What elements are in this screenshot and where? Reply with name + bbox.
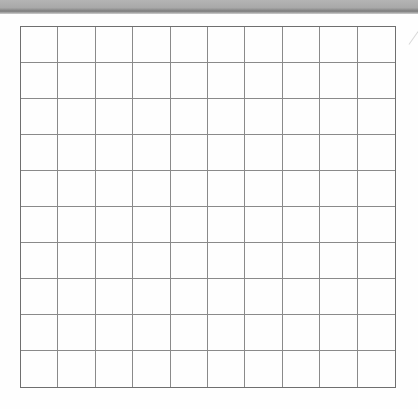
grid-cell xyxy=(208,207,245,243)
grid-cell xyxy=(171,351,208,387)
grid-cell xyxy=(133,351,170,387)
grid-cell xyxy=(320,315,357,351)
grid-cell xyxy=(358,315,395,351)
grid-cell xyxy=(245,171,282,207)
grid-cell xyxy=(96,171,133,207)
grid-cell xyxy=(245,243,282,279)
grid-cell xyxy=(58,171,95,207)
grid-cell xyxy=(283,207,320,243)
grid-cell xyxy=(171,207,208,243)
grid-cell xyxy=(208,171,245,207)
grid-cell xyxy=(133,63,170,99)
grid-cell xyxy=(171,171,208,207)
grid-cell xyxy=(358,171,395,207)
scan-edge-mark xyxy=(409,31,418,45)
grid-cell xyxy=(58,279,95,315)
grid-cell xyxy=(283,63,320,99)
grid-cell xyxy=(96,351,133,387)
grid-cell xyxy=(21,63,58,99)
grid-cell xyxy=(21,171,58,207)
grid-cell xyxy=(96,27,133,63)
grid-cell xyxy=(133,243,170,279)
grid-cell xyxy=(208,63,245,99)
grid-cell xyxy=(208,27,245,63)
scan-shadow-band xyxy=(0,0,418,14)
grid-cell xyxy=(245,99,282,135)
grid-cell xyxy=(208,315,245,351)
blank-grid xyxy=(20,26,396,388)
grid-cell xyxy=(283,279,320,315)
scanned-page xyxy=(0,0,418,409)
grid-cell xyxy=(320,63,357,99)
grid-cell xyxy=(96,99,133,135)
grid-cell xyxy=(283,99,320,135)
grid-cell xyxy=(208,351,245,387)
grid-cell xyxy=(171,63,208,99)
grid-cell xyxy=(133,135,170,171)
grid-cell xyxy=(358,279,395,315)
grid-cell xyxy=(58,351,95,387)
grid-cell xyxy=(21,27,58,63)
grid-cell xyxy=(320,171,357,207)
grid-cell xyxy=(58,27,95,63)
grid-cell xyxy=(96,207,133,243)
grid-cell xyxy=(358,27,395,63)
grid-cell xyxy=(133,315,170,351)
grid-cell xyxy=(245,351,282,387)
grid-cell xyxy=(21,351,58,387)
grid-cell xyxy=(320,207,357,243)
grid-cell xyxy=(96,279,133,315)
grid-cell xyxy=(320,27,357,63)
grid-cell xyxy=(21,99,58,135)
grid-cell xyxy=(171,243,208,279)
grid-cell xyxy=(208,135,245,171)
grid-cell xyxy=(358,243,395,279)
grid-cell xyxy=(58,63,95,99)
grid-cell xyxy=(320,135,357,171)
grid-cell xyxy=(58,99,95,135)
grid-cell xyxy=(171,315,208,351)
grid-cell xyxy=(133,207,170,243)
grid-cell xyxy=(58,243,95,279)
grid-cell xyxy=(320,351,357,387)
grid-cell xyxy=(245,315,282,351)
grid-cell xyxy=(208,279,245,315)
grid-cell xyxy=(245,279,282,315)
grid-cell xyxy=(171,135,208,171)
grid-cell xyxy=(96,135,133,171)
grid-cell xyxy=(21,207,58,243)
grid-cell xyxy=(358,207,395,243)
grid-cell xyxy=(283,351,320,387)
grid-cell xyxy=(320,243,357,279)
grid-cell xyxy=(171,279,208,315)
grid-cell xyxy=(96,63,133,99)
grid-cell xyxy=(358,351,395,387)
grid-cell xyxy=(245,135,282,171)
grid-cell xyxy=(133,171,170,207)
grid-cell xyxy=(358,99,395,135)
grid-cell xyxy=(320,99,357,135)
grid-cell xyxy=(21,279,58,315)
grid-cell xyxy=(171,27,208,63)
grid-cell xyxy=(133,279,170,315)
grid-cell xyxy=(245,207,282,243)
grid-cell xyxy=(208,243,245,279)
grid-cell xyxy=(58,315,95,351)
grid-cell xyxy=(58,135,95,171)
grid-cell xyxy=(171,99,208,135)
grid-cell xyxy=(21,243,58,279)
grid-cell xyxy=(320,279,357,315)
grid-cell xyxy=(96,315,133,351)
grid-cell xyxy=(21,135,58,171)
grid-cell xyxy=(96,243,133,279)
grid-cell xyxy=(283,315,320,351)
grid-cell xyxy=(245,63,282,99)
grid-cell xyxy=(358,63,395,99)
grid-cell xyxy=(283,27,320,63)
grid-cell xyxy=(21,315,58,351)
grid-cell xyxy=(283,135,320,171)
grid-cell xyxy=(208,99,245,135)
grid-cell xyxy=(283,171,320,207)
grid-cell xyxy=(133,27,170,63)
grid-cell xyxy=(358,135,395,171)
